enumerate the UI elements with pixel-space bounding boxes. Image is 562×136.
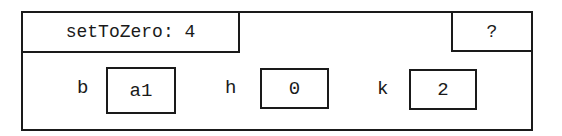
help-button[interactable]: ? bbox=[451, 11, 533, 52]
field-b-text: a1 bbox=[130, 80, 153, 102]
field-b-value[interactable]: a1 bbox=[106, 67, 176, 114]
field-label-k: k bbox=[377, 79, 388, 99]
field-h-value[interactable]: 0 bbox=[260, 68, 329, 109]
field-label-h: h bbox=[225, 78, 236, 98]
dialog-title: setToZero: 4 bbox=[66, 22, 196, 42]
field-k-text: 2 bbox=[437, 79, 448, 101]
field-k-value[interactable]: 2 bbox=[409, 69, 477, 110]
title-box: setToZero: 4 bbox=[21, 11, 240, 53]
field-label-b: b bbox=[77, 78, 88, 98]
question-mark-icon: ? bbox=[487, 22, 498, 42]
field-h-text: 0 bbox=[289, 78, 300, 100]
